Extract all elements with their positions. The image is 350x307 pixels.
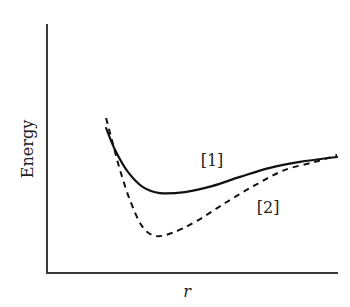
y-axis-label: Energy: [18, 120, 37, 178]
series-label-2: [2]: [257, 198, 280, 217]
series-line-2: [106, 118, 337, 236]
series-label-1: [1]: [201, 151, 224, 170]
energy-vs-r-chart: [1][2] r Energy: [0, 0, 350, 307]
x-axis-label: r: [183, 282, 192, 301]
series-layer: [1][2]: [106, 118, 337, 236]
